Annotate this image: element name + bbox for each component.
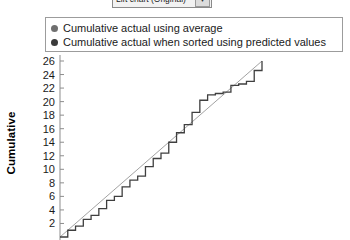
chart-legend: Cumulative actual using average Cumulati… <box>45 17 343 52</box>
legend-item: Cumulative actual using average <box>51 21 342 35</box>
plot-canvas <box>0 55 350 240</box>
lift-chart: Cumulative 2468101214161820222426 <box>0 55 350 240</box>
legend-item-label: Cumulative actual using average <box>63 21 223 35</box>
legend-item: Cumulative actual when sorted using pred… <box>51 35 342 49</box>
legend-item-label: Cumulative actual when sorted using pred… <box>63 35 326 49</box>
legend-marker-icon <box>51 25 58 32</box>
chevron-down-icon[interactable]: ▼ <box>195 0 210 7</box>
chart-type-select-value: Lift chart (Original) <box>116 0 195 7</box>
chart-type-select[interactable]: Lift chart (Original) ▼ <box>112 0 212 8</box>
series-line <box>60 61 262 237</box>
legend-marker-icon <box>51 39 58 46</box>
